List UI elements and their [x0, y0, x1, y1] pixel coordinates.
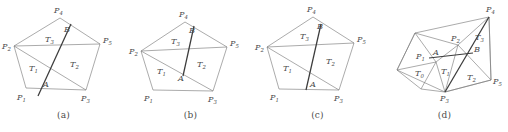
panel-d-caption: (d)	[381, 110, 508, 120]
panel-d: P1 P2 P3 P4 P5 A B T0 T1 T2 T3 (d)	[381, 0, 508, 132]
panel-a-label-p2: P2	[1, 41, 12, 52]
panel-c-label-p1: P1	[269, 92, 279, 103]
panel-a-label-p3: P3	[80, 93, 91, 104]
panel-b-label-a: A	[177, 73, 184, 83]
panel-d-label-t0: T0	[415, 68, 424, 79]
panel-d-label-t2: T2	[467, 72, 476, 83]
panel-c-drawing: P1 P2 P3 P4 P5 A B T1 T2 T3	[254, 0, 381, 112]
panel-c-label-b: B	[316, 21, 323, 31]
panel-b-label-t2: T2	[197, 59, 206, 70]
panel-a-interior-edges	[14, 44, 100, 90]
panel-c-label-p3: P3	[333, 93, 344, 104]
panel-c-label-t1: T1	[283, 63, 292, 74]
panel-b-label-p5: P5	[229, 38, 240, 49]
panel-a-label-p1: P1	[16, 92, 26, 103]
panel-b-label-p3: P3	[207, 94, 218, 105]
figure-container: P1 P2 P3 P4 P5 A B T1 T2 T3 (a) P1	[0, 0, 508, 132]
panel-d-label-a: A	[432, 47, 439, 57]
panel-d-drawing: P1 P2 P3 P4 P5 A B T0 T1 T2 T3	[381, 0, 508, 112]
panel-d-label-t3: T3	[475, 32, 484, 43]
panel-b: P1 P2 P3 P4 P5 A B T1 T2 T3 (b)	[127, 0, 254, 132]
panel-d-label-p5: P5	[492, 76, 503, 87]
panel-b-label-t1: T1	[157, 66, 166, 77]
panel-a-label-t1: T1	[29, 63, 38, 74]
panel-c-label-t3: T3	[300, 31, 309, 42]
panel-c-label-a: A	[309, 79, 316, 89]
panel-c-label-p5: P5	[356, 34, 367, 45]
panel-c-label-p2: P2	[254, 42, 265, 53]
panel-a-caption: (a)	[0, 110, 127, 120]
panel-a-label-t3: T3	[45, 34, 54, 45]
panel-c-caption: (c)	[254, 110, 381, 120]
panel-d-label-p4: P4	[485, 4, 496, 15]
panel-a-label-t2: T2	[70, 59, 79, 70]
panel-b-label-p2: P2	[128, 46, 139, 57]
panel-a-label-a: A	[42, 79, 49, 89]
panel-a-label-p5: P5	[102, 35, 113, 46]
panel-b-label-p4: P4	[178, 9, 189, 20]
panel-d-label-p2: P2	[450, 33, 461, 44]
panel-c-label-t2: T2	[326, 56, 335, 67]
panel-d-label-t1: T1	[441, 66, 450, 77]
panel-d-interior-edges	[397, 17, 491, 92]
panel-a-drawing: P1 P2 P3 P4 P5 A B T1 T2 T3	[0, 0, 127, 112]
panel-d-label-b: B	[473, 44, 480, 54]
panel-b-polygon	[141, 22, 227, 91]
panel-b-label-t3: T3	[171, 36, 180, 47]
panel-a-label-p4: P4	[53, 5, 64, 16]
panel-b-label-b: B	[188, 25, 195, 35]
panel-c: P1 P2 P3 P4 P5 A B T1 T2 T3 (c)	[254, 0, 381, 132]
panel-d-label-p1: P1	[415, 51, 425, 62]
panel-b-caption: (b)	[127, 110, 254, 120]
panel-b-drawing: P1 P2 P3 P4 P5 A B T1 T2 T3	[127, 0, 254, 112]
panel-d-label-p3: P3	[439, 93, 450, 104]
panel-c-label-p4: P4	[306, 4, 317, 15]
panel-a-label-b: B	[63, 24, 70, 34]
panel-b-label-p1: P1	[143, 93, 153, 104]
panel-a: P1 P2 P3 P4 P5 A B T1 T2 T3 (a)	[0, 0, 127, 132]
